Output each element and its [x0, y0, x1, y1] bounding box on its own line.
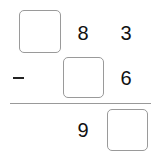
sum-line [10, 103, 151, 104]
minus-sign [13, 77, 24, 79]
answer-box-bottom[interactable] [107, 109, 148, 151]
digit-9: 9 [76, 120, 90, 140]
answer-box-middle[interactable] [63, 57, 104, 98]
digit-3: 3 [119, 23, 133, 43]
digit-6: 6 [119, 68, 133, 88]
digit-8: 8 [76, 23, 90, 43]
answer-box-top[interactable] [19, 10, 61, 53]
